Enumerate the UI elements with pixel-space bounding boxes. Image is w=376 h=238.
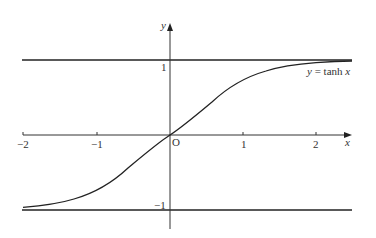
curve-label-x: x [345,65,350,77]
y-axis-arrow-icon [167,23,173,31]
x-tick-label-2: 2 [313,139,319,150]
curve-label: y = tanh x [307,66,350,77]
curve-label-eq: = tanh [312,65,345,77]
x-tick-label-neg2: −2 [17,139,29,150]
origin-label: O [172,137,180,148]
x-tick-label-1: 1 [241,139,247,150]
y-axis-label: y [161,20,166,31]
y-tick-label-1: 1 [161,62,167,73]
x-tick-label-neg1: −1 [91,139,103,150]
chart-canvas [0,0,376,238]
y-tick-label-neg1: −1 [154,200,166,211]
x-axis-label: x [345,137,350,148]
tanh-curve [23,61,352,207]
